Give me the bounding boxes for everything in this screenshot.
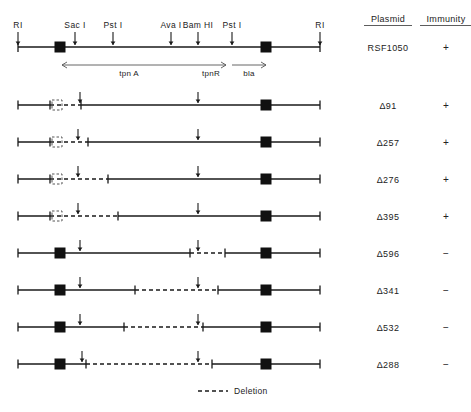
site-arrow-3-head xyxy=(169,41,174,45)
column-headers: Plasmid Immunity xyxy=(364,14,471,26)
reference-map: RISac IPst IAva IBam HIPst IRItpn AtpnRb… xyxy=(13,20,449,78)
site-label-bam-hi-4: Bam HI xyxy=(183,20,214,30)
immunity-column-header: Immunity xyxy=(427,14,466,24)
row-marker-arrow-1-head xyxy=(196,99,201,103)
site-arrow-5-head xyxy=(230,41,235,45)
is-element-box-right-filled xyxy=(261,359,271,369)
site-label-pst-i-5: Pst I xyxy=(222,20,241,30)
site-label-ri-0: RI xyxy=(13,20,22,30)
row-immunity-value: + xyxy=(443,211,449,222)
row-marker-arrow-1-head xyxy=(196,321,201,325)
row-marker-arrow-0-head xyxy=(78,247,83,251)
site-label-ri-6: RI xyxy=(315,20,324,30)
row-marker-arrow-0-head xyxy=(78,99,83,103)
is-element-box-left-filled xyxy=(55,248,65,258)
site-arrow-1-head xyxy=(73,41,78,45)
site-label-sac-i-1: Sac I xyxy=(64,20,85,30)
plasmid-column-header: Plasmid xyxy=(371,14,405,24)
row-marker-arrow-0-head xyxy=(78,321,83,325)
row-marker-arrow-0-head xyxy=(76,210,81,214)
row-immunity-value: + xyxy=(443,174,449,185)
row-marker-arrow-1-head xyxy=(196,358,201,362)
is-element-box-right-filled xyxy=(261,100,271,110)
row-plasmid-name: Δ276 xyxy=(377,175,400,185)
gene-tpn-A: tpn A xyxy=(62,62,196,78)
deletion-row: Δ257+ xyxy=(18,129,449,148)
is-element-box-left-filled xyxy=(55,322,65,332)
reference-immunity-value: + xyxy=(443,42,449,53)
gene-label-1: tpnR xyxy=(202,69,220,78)
is-element-box-1 xyxy=(55,42,65,52)
row-marker-arrow-1-head xyxy=(196,173,201,177)
row-immunity-value: + xyxy=(443,100,449,111)
row-plasmid-name: Δ341 xyxy=(377,286,400,296)
legend-label: Deletion xyxy=(234,386,268,396)
deletion-row: Δ532− xyxy=(18,314,449,333)
deletion-row: Δ341− xyxy=(18,277,449,296)
row-marker-arrow-1-head xyxy=(196,210,201,214)
row-marker-arrow-0-head xyxy=(78,284,83,288)
row-plasmid-name: Δ257 xyxy=(377,138,400,148)
site-arrow-4-head xyxy=(196,41,201,45)
row-marker-arrow-0-head xyxy=(76,173,81,177)
gene-tpnR: tpnR xyxy=(196,62,226,78)
deletion-row: Δ276+ xyxy=(18,166,449,185)
is-element-box-right-filled xyxy=(261,285,271,295)
row-immunity-value: − xyxy=(443,248,449,259)
row-plasmid-name: Δ596 xyxy=(377,249,400,259)
site-label-pst-i-2: Pst I xyxy=(103,20,122,30)
deletion-row: Δ91+ xyxy=(18,92,449,111)
row-marker-arrow-1-head xyxy=(196,284,201,288)
row-immunity-value: − xyxy=(443,359,449,370)
row-plasmid-name: Δ91 xyxy=(379,101,396,111)
is-element-box-right-filled xyxy=(261,174,271,184)
row-immunity-value: + xyxy=(443,137,449,148)
is-element-box-2 xyxy=(261,42,271,52)
gene-bla: bla xyxy=(232,62,266,78)
row-plasmid-name: Δ532 xyxy=(377,323,400,333)
row-marker-arrow-0-head xyxy=(76,136,81,140)
is-element-box-right-filled xyxy=(261,248,271,258)
row-marker-arrow-0-head xyxy=(80,358,85,362)
is-element-box-left-filled xyxy=(55,285,65,295)
reference-plasmid-name: RSF1050 xyxy=(368,43,409,53)
site-arrow-6-head xyxy=(318,41,323,45)
is-element-box-right-filled xyxy=(261,137,271,147)
site-arrow-0-head xyxy=(16,41,21,45)
row-marker-arrow-1-head xyxy=(196,136,201,140)
site-label-ava-i-3: Ava I xyxy=(160,20,181,30)
row-plasmid-name: Δ288 xyxy=(377,360,400,370)
figure-canvas: Plasmid Immunity RISac IPst IAva IBam HI… xyxy=(0,0,471,412)
row-immunity-value: − xyxy=(443,322,449,333)
deletion-row: Δ395+ xyxy=(18,203,449,222)
is-element-box-right-filled xyxy=(261,322,271,332)
gene-label-0: tpn A xyxy=(119,69,139,78)
deletion-rows: Δ91+Δ257+Δ276+Δ395+Δ596−Δ341−Δ532−Δ288− xyxy=(18,92,449,370)
site-arrow-2-head xyxy=(111,41,116,45)
row-marker-arrow-1-head xyxy=(196,247,201,251)
legend: Deletion xyxy=(198,386,268,396)
is-element-box-left-filled xyxy=(55,359,65,369)
row-plasmid-name: Δ395 xyxy=(377,212,400,222)
gene-label-2: bla xyxy=(243,69,255,78)
deletion-row: Δ288− xyxy=(18,351,449,370)
row-immunity-value: − xyxy=(443,285,449,296)
deletion-row: Δ596− xyxy=(18,240,449,259)
is-element-box-right-filled xyxy=(261,211,271,221)
